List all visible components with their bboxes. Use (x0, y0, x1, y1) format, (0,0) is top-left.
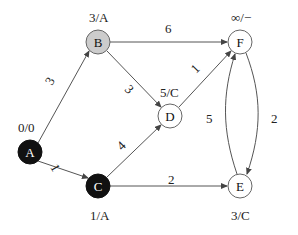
annotation-d: 5/C (160, 85, 179, 100)
annotation-c: 1/A (90, 208, 110, 223)
node-c-label: C (94, 179, 103, 194)
edges (38, 42, 258, 186)
weight-a-b: 3 (42, 74, 58, 87)
annotation-b: 3/A (89, 10, 109, 25)
node-f: F (228, 30, 252, 54)
annotation-f: ∞/− (231, 10, 251, 25)
annotation-a: 0/0 (18, 120, 35, 135)
edge-f-e (246, 53, 258, 174)
edge-b-d (107, 51, 161, 107)
node-a: A (18, 140, 42, 164)
node-d-label: D (165, 109, 174, 124)
weight-b-f: 6 (165, 21, 172, 36)
node-d: D (158, 104, 182, 128)
weight-f-e: 2 (271, 111, 278, 126)
node-f-label: F (236, 35, 243, 50)
graph-diagram: 3 1 6 3 4 2 1 5 2 0/0 3/A 1/A 5/C 3/C ∞/… (0, 0, 298, 235)
weight-b-d: 3 (122, 82, 137, 97)
node-a-label: A (25, 145, 35, 160)
edge-c-d (107, 125, 161, 177)
weight-d-f: 1 (188, 61, 203, 76)
node-b: B (86, 30, 110, 54)
weight-a-c: 1 (47, 161, 63, 174)
weight-c-d: 4 (114, 138, 130, 154)
node-b-label: B (94, 35, 103, 50)
edge-a-b (38, 51, 89, 143)
weight-c-e: 2 (168, 172, 175, 187)
annotation-e: 3/C (231, 208, 250, 223)
node-c: C (86, 174, 110, 198)
weight-e-f: 5 (206, 111, 213, 126)
node-e: E (228, 174, 252, 198)
edge-d-f (179, 51, 231, 107)
node-e-label: E (236, 179, 244, 194)
edge-e-f (225, 54, 237, 174)
